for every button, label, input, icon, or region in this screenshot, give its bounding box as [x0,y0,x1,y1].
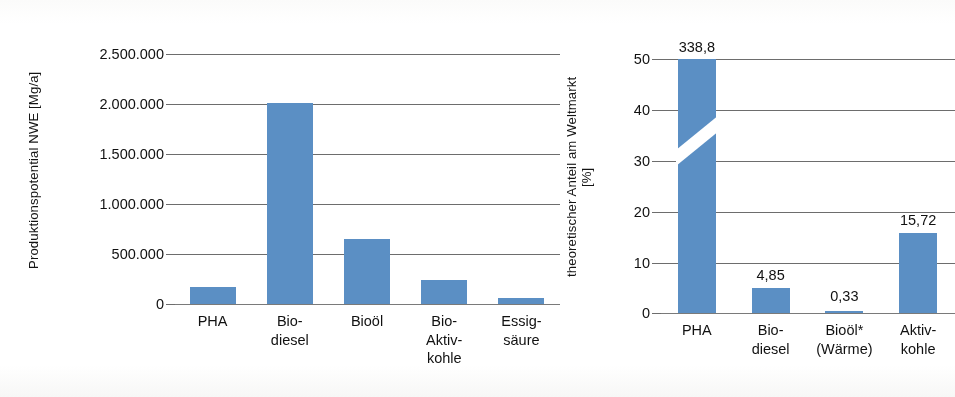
right-bar-group: 338,8 4,85 0,33 [660,59,955,313]
right-bar-slot-aktivkohle: 15,72 [881,59,955,313]
left-bar-slot-biooel [328,54,405,304]
left-cat-pha: PHA [174,312,251,368]
left-ytick-500000: 500.000 [112,246,164,262]
right-ytick-30: 30 [634,153,650,169]
left-bar-slot-bioaktivkohle [406,54,483,304]
right-ytick-10: 10 [634,255,650,271]
left-bar-slot-biodiesel [251,54,328,304]
right-ytick-50: 50 [634,51,650,67]
left-bar-group [174,54,560,304]
right-cat-biodiesel: Bio- diesel [734,321,808,358]
left-cat-biodiesel: Bio- diesel [251,312,328,368]
left-tickmark-1000000 [166,204,175,205]
left-tickmark-500000 [166,254,175,255]
left-tickmark-2500000 [166,54,175,55]
right-tickmark-50 [652,59,661,60]
right-bar-slot-biooel: 0,33 [808,59,882,313]
right-x-axis-labels: PHA Bio- diesel Bioöl* (Wärme) Aktiv- ko… [660,321,955,358]
right-value-label-aktivkohle: 15,72 [900,212,936,228]
right-tickmark-10 [652,263,661,264]
left-y-axis-title: Produktionspotential NWE [Mg/a] [26,36,41,304]
right-tickmark-30 [652,161,661,162]
chart-left-produktionspotential: Produktionspotential NWE [Mg/a] 2.500.00… [0,0,560,397]
left-tickmark-0 [166,304,175,305]
right-cat-biooel: Bioöl* (Wärme) [808,321,882,358]
right-ytick-20: 20 [634,204,650,220]
left-ytick-1000000: 1.000.000 [99,196,164,212]
right-tickmark-40 [652,110,661,111]
figure-container: Produktionspotential NWE [Mg/a] 2.500.00… [0,0,955,397]
right-cat-pha: PHA [660,321,734,358]
right-plot-area: 338,8 4,85 0,33 [660,59,955,313]
left-cat-biooel: Bioöl [328,312,405,368]
left-ytick-2000000: 2.000.000 [99,96,164,112]
left-cat-essigsaeure: Essig- säure [483,312,560,368]
left-tickmark-1500000 [166,154,175,155]
left-plot-area [174,54,560,304]
right-tickmark-20 [652,212,661,213]
right-bar-pha[interactable] [678,59,716,313]
right-value-label-pha: 338,8 [679,39,715,55]
right-bar-slot-pha: 338,8 [660,59,734,313]
left-ytick-0: 0 [156,296,164,312]
left-ytick-1500000: 1.500.000 [99,146,164,162]
left-bar-slot-essigsaeure [483,54,560,304]
right-ytick-0: 0 [642,305,650,321]
right-bar-slot-biodiesel: 4,85 [734,59,808,313]
left-tickmark-2000000 [166,104,175,105]
chart-right-weltmarktanteil: theoretischer Anteil am Weltmarkt [%] 50… [560,0,955,397]
left-ytick-2500000: 2.500.000 [99,46,164,62]
left-bar-biodiesel[interactable] [267,103,313,304]
right-bar-biodiesel[interactable] [752,288,790,313]
left-axis-baseline [174,304,560,305]
left-bar-biooel[interactable] [344,239,390,305]
right-axis-baseline [660,313,955,314]
right-bar-aktivkohle[interactable] [899,233,937,313]
left-y-tick-labels: 2.500.000 2.000.000 1.500.000 1.000.000 … [52,0,164,397]
right-tickmark-0 [652,313,661,314]
right-ytick-40: 40 [634,102,650,118]
left-bar-essigsaeure[interactable] [498,298,544,304]
right-value-label-biodiesel: 4,85 [757,267,785,283]
left-bar-slot-pha [174,54,251,304]
right-cat-aktivkohle: Aktiv- kohle [881,321,955,358]
right-bar-biooel[interactable] [825,311,863,314]
left-bar-bioaktivkohle[interactable] [421,280,467,305]
axis-break-icon [676,110,718,168]
left-bar-pha[interactable] [190,287,236,304]
right-value-label-biooel: 0,33 [830,288,858,304]
left-x-axis-labels: PHA Bio- diesel Bioöl Bio- Aktiv- kohle … [174,312,560,368]
left-cat-bioaktivkohle: Bio- Aktiv- kohle [406,312,483,368]
right-y-tick-labels: 50 40 30 20 10 0 [582,0,650,397]
